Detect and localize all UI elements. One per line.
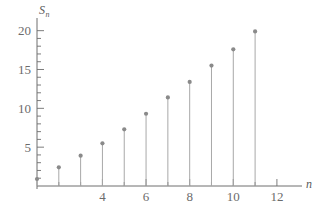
x-axis-tick-label: 6 <box>143 189 150 204</box>
stem-plot-chart: 46810125101520nSn <box>0 0 316 219</box>
x-axis-tick-label: 12 <box>270 189 283 204</box>
data-point-marker[interactable] <box>100 141 104 145</box>
data-point-marker[interactable] <box>253 29 257 33</box>
data-point-marker[interactable] <box>166 95 170 99</box>
y-axis-title: Sn <box>39 3 50 19</box>
data-point-marker[interactable] <box>188 80 192 84</box>
data-point-marker[interactable] <box>231 47 235 51</box>
chart-canvas: 46810125101520nSn <box>0 0 316 219</box>
data-point-marker[interactable] <box>35 177 39 181</box>
y-axis-tick-label: 20 <box>18 23 31 38</box>
x-axis-tick-label: 10 <box>227 189 240 204</box>
y-axis-tick-label: 15 <box>18 62 31 77</box>
x-axis-tick-label: 8 <box>186 189 193 204</box>
data-point-marker[interactable] <box>122 127 126 131</box>
data-point-marker[interactable] <box>144 112 148 116</box>
data-point-marker[interactable] <box>79 154 83 158</box>
x-axis-tick-label: 4 <box>99 189 106 204</box>
y-axis-tick-label: 10 <box>18 101 31 116</box>
x-axis-title: n <box>306 177 312 191</box>
y-axis-tick-label: 5 <box>25 140 32 155</box>
data-point-marker[interactable] <box>209 64 213 68</box>
data-point-marker[interactable] <box>57 165 61 169</box>
